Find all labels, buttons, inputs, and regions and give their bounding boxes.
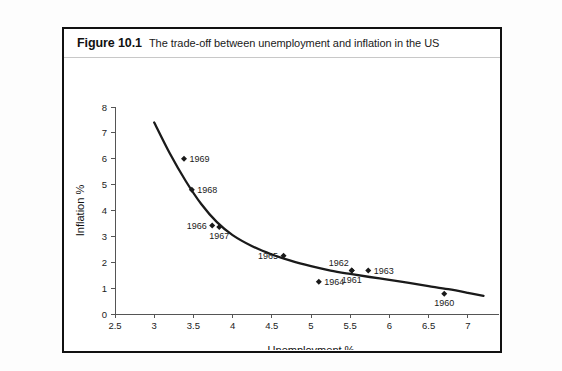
y-tick-label: 2 (102, 257, 107, 268)
figure-header: Figure 10.1 The trade-off between unempl… (64, 29, 500, 58)
x-tick-label: 5.5 (344, 320, 357, 331)
y-tick-label: 0 (102, 309, 107, 320)
phillips-curve-line (154, 123, 483, 296)
x-tick-label: 4.5 (265, 320, 278, 331)
data-point-marker (316, 279, 322, 285)
chart-plot-area: 2.533.544.555.566.577.5 012345678 196919… (64, 58, 499, 350)
x-tick-label: 2.5 (108, 320, 121, 331)
data-point-marker (181, 156, 187, 162)
data-point-label: 1963 (374, 266, 394, 276)
data-point-marker (365, 268, 371, 274)
data-point-marker (441, 291, 447, 297)
phillips-curve-chart: 2.533.544.555.566.577.5 012345678 196919… (64, 58, 499, 350)
y-axis-ticks: 012345678 (102, 102, 115, 320)
y-tick-label: 3 (102, 231, 107, 242)
x-tick-label: 4 (230, 320, 235, 331)
data-point-label: 1960 (434, 298, 454, 308)
data-point-marker (349, 268, 355, 274)
y-tick-label: 8 (102, 102, 107, 113)
x-tick-label: 7 (465, 320, 470, 331)
chart-axes (115, 107, 499, 314)
data-point-label: 1962 (329, 258, 349, 268)
data-point-label: 1965 (258, 251, 278, 261)
data-point-markers (181, 156, 447, 297)
x-tick-label: 3.5 (187, 320, 200, 331)
trend-curve (154, 123, 483, 296)
figure-caption: The trade-off between unemployment and i… (149, 37, 439, 49)
y-tick-label: 5 (102, 179, 107, 190)
y-tick-label: 1 (102, 283, 107, 294)
data-point-label: 1961 (342, 275, 362, 285)
y-tick-label: 6 (102, 153, 107, 164)
data-point-label: 1969 (189, 154, 209, 164)
x-tick-label: 3 (152, 320, 157, 331)
x-tick-label: 6 (387, 320, 392, 331)
data-point-label: 1967 (209, 231, 229, 241)
data-point-label: 1968 (197, 185, 217, 195)
y-tick-label: 7 (102, 127, 107, 138)
y-tick-label: 4 (102, 205, 107, 216)
y-axis-title: Inflation % (74, 185, 86, 237)
page-root: Figure 10.1 The trade-off between unempl… (0, 0, 562, 371)
x-axis-ticks: 2.533.544.555.566.577.5 (108, 314, 499, 331)
x-tick-label: 6.5 (422, 320, 435, 331)
figure-box: Figure 10.1 The trade-off between unempl… (62, 27, 502, 353)
data-point-marker (209, 223, 215, 229)
x-tick-label: 5 (308, 320, 313, 331)
data-point-label: 1964 (324, 277, 344, 287)
data-point-label: 1966 (187, 221, 207, 231)
figure-number: Figure 10.1 (77, 36, 142, 50)
x-axis-title: Unemployment % (268, 344, 355, 350)
